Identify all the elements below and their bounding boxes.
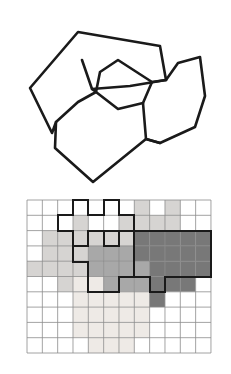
raster-cell — [58, 292, 73, 307]
raster-cell — [150, 246, 165, 261]
raster-cell — [180, 307, 195, 322]
raster-cell — [180, 322, 195, 337]
raster-cell — [196, 277, 211, 292]
raster-cell — [134, 307, 149, 322]
raster-cell — [104, 338, 119, 353]
raster-cell — [134, 231, 149, 246]
raster-cell — [165, 277, 180, 292]
raster-cell — [104, 292, 119, 307]
raster-cell — [88, 200, 103, 215]
raster-cell — [27, 246, 42, 261]
raster-cell — [150, 338, 165, 353]
raster-cell — [27, 322, 42, 337]
raster-cell — [42, 200, 57, 215]
raster-cell — [134, 215, 149, 230]
raster-cell — [119, 246, 134, 261]
raster-cell — [42, 322, 57, 337]
raster-cell — [42, 261, 57, 276]
raster-cell — [150, 200, 165, 215]
raster-cell — [196, 322, 211, 337]
raster-cell — [180, 200, 195, 215]
raster-cell — [73, 200, 88, 215]
raster-cell — [73, 322, 88, 337]
raster-cell — [42, 307, 57, 322]
raster-cell — [88, 307, 103, 322]
raster-cell — [58, 246, 73, 261]
raster-cell — [58, 200, 73, 215]
raster-cell — [42, 215, 57, 230]
raster-cell — [180, 261, 195, 276]
raster-cell — [150, 307, 165, 322]
raster-cell — [58, 277, 73, 292]
raster-cell — [27, 261, 42, 276]
raster-cell — [42, 277, 57, 292]
raster-cell — [27, 292, 42, 307]
raster-cell — [88, 261, 103, 276]
raster-cell — [104, 200, 119, 215]
raster-cell — [88, 215, 103, 230]
raster-cell — [180, 246, 195, 261]
raster-cell — [180, 231, 195, 246]
raster-cell — [165, 231, 180, 246]
vector-polygon-map — [0, 0, 231, 190]
raster-cell — [73, 292, 88, 307]
raster-cell — [165, 338, 180, 353]
raster-cell — [119, 200, 134, 215]
raster-cell — [73, 307, 88, 322]
raster-cell — [27, 231, 42, 246]
raster-cell — [165, 292, 180, 307]
raster-cell — [42, 338, 57, 353]
figure-root — [0, 0, 231, 374]
raster-cell — [119, 292, 134, 307]
raster-cell — [119, 231, 134, 246]
raster-cell — [119, 322, 134, 337]
raster-cell — [134, 292, 149, 307]
raster-cell — [134, 338, 149, 353]
raster-cell — [150, 231, 165, 246]
raster-cell — [165, 200, 180, 215]
raster-cell — [58, 322, 73, 337]
raster-cell — [27, 200, 42, 215]
vector-polygon-panel — [0, 0, 231, 190]
raster-cell — [165, 307, 180, 322]
rasterized-grid — [0, 190, 231, 374]
raster-cell — [73, 246, 88, 261]
raster-cell — [88, 292, 103, 307]
raster-cell — [88, 338, 103, 353]
raster-cell — [150, 292, 165, 307]
raster-cell — [88, 231, 103, 246]
raster-cell — [196, 231, 211, 246]
raster-cell — [134, 261, 149, 276]
raster-cell — [165, 215, 180, 230]
raster-cell — [196, 261, 211, 276]
raster-cell — [196, 246, 211, 261]
raster-cell — [58, 215, 73, 230]
raster-cell — [104, 231, 119, 246]
raster-cell — [180, 277, 195, 292]
raster-cell — [104, 277, 119, 292]
raster-cell — [27, 277, 42, 292]
raster-cell — [180, 215, 195, 230]
raster-cell — [196, 292, 211, 307]
raster-cell — [119, 277, 134, 292]
raster-cell — [58, 231, 73, 246]
raster-cell — [73, 261, 88, 276]
raster-cell — [134, 246, 149, 261]
raster-cell — [42, 231, 57, 246]
raster-cell — [165, 261, 180, 276]
raster-cell — [150, 277, 165, 292]
raster-cell — [88, 246, 103, 261]
raster-cell — [104, 261, 119, 276]
raster-cell — [73, 338, 88, 353]
raster-cell — [150, 261, 165, 276]
raster-cell — [150, 322, 165, 337]
raster-cell — [27, 338, 42, 353]
raster-cell — [196, 307, 211, 322]
raster-cell — [134, 322, 149, 337]
raster-cell — [134, 277, 149, 292]
raster-cell — [58, 338, 73, 353]
raster-cell — [104, 307, 119, 322]
raster-cell — [119, 261, 134, 276]
raster-cell — [88, 322, 103, 337]
raster-cell — [27, 307, 42, 322]
